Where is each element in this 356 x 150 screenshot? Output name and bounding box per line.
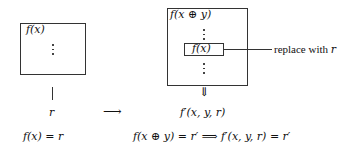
double-down-arrow-icon: ⇓	[199, 86, 209, 98]
right-equation-line: f(x ⊕ y) = r′ ⟹ f′(x, y, r) = r′	[133, 131, 290, 143]
replace-annotation-text: replace with	[274, 43, 331, 55]
replace-annotation-line	[224, 49, 272, 50]
left-equation: f(x) = r	[23, 131, 63, 143]
right-result-expression: f′(x, y, r)	[180, 107, 225, 119]
right-upper-vdots	[203, 29, 205, 43]
left-box-label: f(x)	[26, 24, 45, 36]
left-result-symbol: r	[49, 107, 54, 119]
left-box-vdots	[52, 44, 54, 58]
transition-arrow-icon: ⟶	[103, 106, 122, 118]
replace-annotation: replace with r	[274, 43, 336, 56]
replace-annotation-symbol: r	[331, 43, 336, 56]
right-lower-vdots	[203, 63, 205, 77]
right-equation-left: f(x ⊕ y) = r′	[133, 130, 198, 143]
right-equation-right: f′(x, y, r) = r′	[221, 130, 290, 143]
right-inner-box-label: f(x)	[192, 43, 211, 55]
implies-arrow-icon: ⟹	[202, 130, 218, 143]
left-output-line	[52, 87, 53, 100]
right-outer-box-label: f(x ⊕ y)	[170, 9, 211, 21]
